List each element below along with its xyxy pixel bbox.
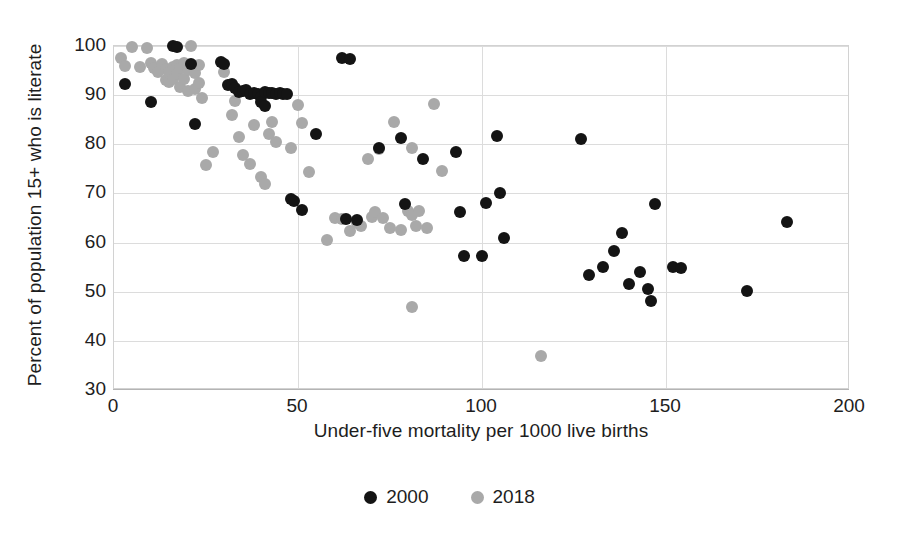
data-point-2000 — [417, 153, 429, 165]
data-point-2018 — [410, 220, 422, 232]
data-point-2018 — [200, 159, 212, 171]
data-point-2018 — [406, 142, 418, 154]
data-point-2000 — [608, 245, 620, 257]
data-point-2018 — [292, 99, 304, 111]
gridline-horizontal — [114, 46, 848, 47]
gridline-horizontal — [114, 243, 848, 244]
data-point-2018 — [321, 234, 333, 246]
data-point-2018 — [259, 178, 271, 190]
data-point-2000 — [145, 96, 157, 108]
gridline-horizontal — [114, 95, 848, 96]
data-point-2018 — [406, 301, 418, 313]
data-point-2000 — [395, 132, 407, 144]
data-point-2000 — [741, 285, 753, 297]
data-point-2018 — [248, 119, 260, 131]
data-point-2018 — [266, 116, 278, 128]
data-point-2000 — [189, 118, 201, 130]
y-tick-label: 60 — [60, 232, 106, 251]
y-tick-label: 100 — [60, 35, 106, 54]
legend-marker-icon — [364, 491, 377, 504]
data-point-2000 — [649, 198, 661, 210]
data-point-2000 — [498, 232, 510, 244]
gridline-horizontal — [114, 193, 848, 194]
gridline-vertical — [298, 46, 299, 388]
legend-label: 2018 — [493, 486, 535, 508]
data-point-2000 — [454, 206, 466, 218]
y-tick-label: 50 — [60, 281, 106, 300]
data-point-2000 — [344, 53, 356, 65]
x-axis-title: Under-five mortality per 1000 live birth… — [113, 420, 849, 442]
data-point-2000 — [583, 269, 595, 281]
data-point-2018 — [535, 350, 547, 362]
gridline-horizontal — [114, 144, 848, 145]
data-point-2000 — [310, 128, 322, 140]
legend-item-2018[interactable]: 2018 — [471, 486, 535, 508]
data-point-2000 — [296, 204, 308, 216]
data-point-2018 — [362, 153, 374, 165]
data-point-2018 — [428, 98, 440, 110]
data-point-2000 — [399, 198, 411, 210]
data-point-2000 — [450, 146, 462, 158]
data-point-2018 — [196, 92, 208, 104]
x-axis-line — [113, 389, 849, 390]
gridline-horizontal — [114, 341, 848, 342]
data-point-2000 — [476, 250, 488, 262]
data-point-2018 — [126, 41, 138, 53]
data-point-2018 — [119, 60, 131, 72]
data-point-2000 — [675, 262, 687, 274]
data-point-2018 — [296, 117, 308, 129]
data-point-2000 — [623, 278, 635, 290]
data-point-2018 — [207, 146, 219, 158]
data-point-2018 — [285, 142, 297, 154]
legend-item-2000[interactable]: 2000 — [364, 486, 428, 508]
data-point-2000 — [480, 197, 492, 209]
data-point-2000 — [259, 100, 271, 112]
gridline-vertical — [482, 46, 483, 388]
data-point-2018 — [270, 136, 282, 148]
chart-legend: 20002018 — [0, 486, 899, 508]
data-point-2018 — [226, 109, 238, 121]
data-point-2000 — [616, 227, 628, 239]
data-point-2018 — [233, 131, 245, 143]
data-point-2000 — [171, 41, 183, 53]
data-point-2000 — [781, 216, 793, 228]
data-point-2000 — [458, 250, 470, 262]
data-point-2000 — [281, 88, 293, 100]
y-tick-label: 40 — [60, 330, 106, 349]
gridline-vertical — [666, 46, 667, 388]
data-point-2000 — [645, 295, 657, 307]
legend-label: 2000 — [386, 486, 428, 508]
data-point-2018 — [421, 222, 433, 234]
data-point-2018 — [303, 166, 315, 178]
data-point-2018 — [244, 158, 256, 170]
legend-marker-icon — [471, 491, 484, 504]
data-point-2000 — [634, 266, 646, 278]
data-point-2018 — [436, 165, 448, 177]
data-point-2018 — [413, 205, 425, 217]
scatter-chart: Percent of population 15+ who is literat… — [0, 0, 899, 535]
data-point-2018 — [134, 61, 146, 73]
data-point-2018 — [185, 40, 197, 52]
x-tick-label: 0 — [83, 396, 143, 415]
data-point-2018 — [141, 42, 153, 54]
data-point-2018 — [395, 224, 407, 236]
data-point-2000 — [642, 283, 654, 295]
data-point-2000 — [491, 130, 503, 142]
x-tick-label: 50 — [267, 396, 327, 415]
y-axis-title: Percent of population 15+ who is literat… — [24, 25, 46, 405]
x-tick-label: 100 — [451, 396, 511, 415]
y-tick-label: 90 — [60, 84, 106, 103]
y-tick-label: 80 — [60, 133, 106, 152]
gridline-horizontal — [114, 292, 848, 293]
data-point-2000 — [119, 78, 131, 90]
data-point-2000 — [597, 261, 609, 273]
x-tick-label: 200 — [819, 396, 879, 415]
y-tick-label: 70 — [60, 182, 106, 201]
plot-area — [113, 45, 849, 389]
data-point-2018 — [388, 116, 400, 128]
data-point-2018 — [193, 77, 205, 89]
data-point-2000 — [494, 187, 506, 199]
x-tick-label: 150 — [635, 396, 695, 415]
